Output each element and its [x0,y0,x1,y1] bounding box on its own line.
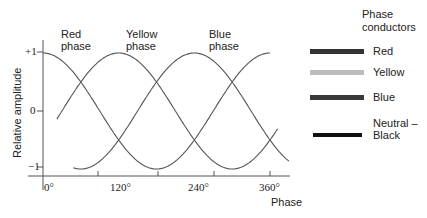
annotation-yellow-phase: Yellow phase [126,28,157,52]
x-tick-label-0: 0° [44,181,54,193]
legend-swatch-yellow [310,70,364,75]
legend-swatch-neutral [313,133,362,137]
y-tick-label-minus1: −1 [28,160,40,172]
legend-item-blue: Blue [310,91,395,103]
annotation-blue-phase: Blue phase [209,28,239,52]
legend-title: Phase conductors [362,8,416,34]
red-phase-curve [43,53,270,169]
phase-curves [43,53,289,169]
legend-label-neutral: Neutral – Black [373,117,418,141]
y-axis-label: Relative amplitude [11,68,23,159]
yellow-phase-curve [57,53,278,169]
legend-swatch-red [310,49,364,54]
legend-item-yellow: Yellow [310,66,404,78]
legend-label-red: Red [373,45,393,57]
annotation-red-phase: Red phase [61,28,91,52]
legend-label-blue: Blue [373,91,395,103]
y-tick-label-plus1: +1 [25,45,37,57]
legend-label-yellow: Yellow [373,66,404,78]
x-tick-label-120: 120° [110,181,131,193]
blue-phase-curve [73,53,289,169]
legend-item-neutral: Neutral – Black [313,117,418,141]
legend-item-red: Red [310,45,393,57]
x-axis-label: Phase [271,196,302,208]
x-tick-label-360: 360° [259,181,280,193]
x-tick-label-240: 240° [188,181,209,193]
legend-swatch-blue [310,95,364,100]
y-tick-label-zero: 0 [30,104,36,116]
